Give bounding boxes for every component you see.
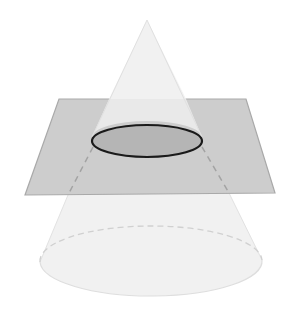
cone-lower-body	[40, 193, 262, 296]
cone-upper-body	[109, 20, 186, 99]
cross-section-ellipse	[92, 125, 202, 157]
cone-plane-diagram	[0, 0, 297, 313]
